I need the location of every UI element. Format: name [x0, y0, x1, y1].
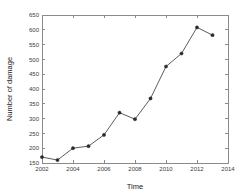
- data-point: [87, 145, 90, 148]
- chart-canvas: 1502002503003504004505005506006502002200…: [0, 0, 244, 193]
- y-tick-label: 400: [29, 86, 40, 92]
- chart-screenshot: 1502002503003504004505005506006502002200…: [0, 0, 244, 193]
- data-point-markers: [40, 26, 214, 162]
- x-tick-label: 2002: [35, 166, 49, 172]
- y-tick-label: 500: [29, 57, 40, 63]
- chart-ticks: [42, 15, 228, 163]
- y-tick-label: 450: [29, 71, 40, 77]
- data-point: [118, 111, 121, 114]
- data-point: [195, 26, 198, 29]
- chart-tick-labels: 1502002503003504004505005506006502002200…: [29, 12, 235, 172]
- data-point: [180, 52, 183, 55]
- y-tick-label: 250: [29, 131, 40, 137]
- data-point: [149, 97, 152, 100]
- y-tick-label: 600: [29, 27, 40, 33]
- y-axis-title: Number of damage: [5, 57, 14, 121]
- y-tick-label: 300: [29, 116, 40, 122]
- y-tick-label: 650: [29, 12, 40, 18]
- data-point: [133, 118, 136, 121]
- data-point: [102, 133, 105, 136]
- x-axis-title: Time: [127, 182, 143, 191]
- x-tick-label: 2008: [128, 166, 142, 172]
- line-chart-figure: 1502002503003504004505005506006502002200…: [0, 0, 244, 193]
- data-point: [211, 34, 214, 37]
- data-point: [56, 158, 59, 161]
- x-tick-label: 2014: [221, 166, 235, 172]
- y-tick-label: 200: [29, 145, 40, 151]
- data-point: [164, 65, 167, 68]
- x-tick-label: 2010: [159, 166, 173, 172]
- y-tick-label: 550: [29, 42, 40, 48]
- data-line-series: [42, 27, 213, 160]
- x-tick-label: 2012: [190, 166, 204, 172]
- data-point: [40, 155, 43, 158]
- chart-axes: [42, 15, 228, 163]
- x-tick-label: 2006: [97, 166, 111, 172]
- y-tick-label: 350: [29, 101, 40, 107]
- x-tick-label: 2004: [66, 166, 80, 172]
- data-point: [71, 147, 74, 150]
